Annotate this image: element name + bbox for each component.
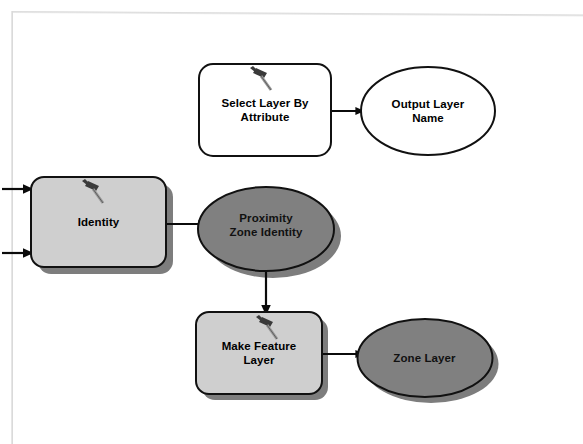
model-diagram-canvas: Select Layer By Attribute Output Layer N… bbox=[0, 0, 583, 444]
diagram-shapes-layer bbox=[0, 0, 583, 444]
zone-layer-shape[interactable] bbox=[358, 319, 493, 397]
identity-shape[interactable] bbox=[31, 177, 166, 267]
select-layer-by-attribute-shape[interactable] bbox=[199, 64, 331, 156]
make-feature-layer-shape[interactable] bbox=[196, 312, 322, 394]
proximity-zone-identity-shape[interactable] bbox=[198, 187, 334, 271]
output-layer-name-shape[interactable] bbox=[361, 67, 495, 155]
